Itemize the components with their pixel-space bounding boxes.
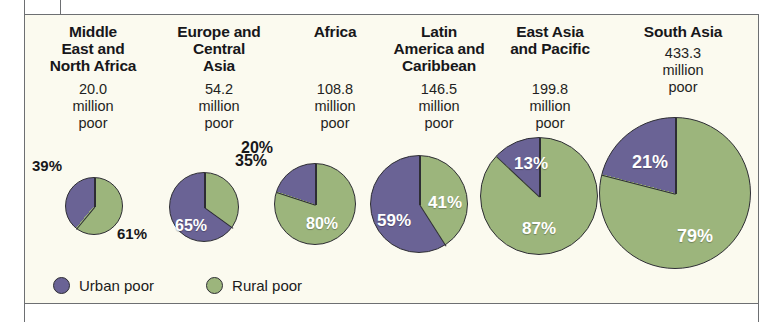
pie-slice-divider: [205, 207, 234, 229]
region-amount-line: million: [27, 98, 159, 115]
urban-percent-label: 13%: [514, 154, 548, 174]
region-title-line: East and: [27, 40, 159, 57]
frame-left-tick: [24, 0, 25, 14]
legend: Urban poor Rural poor: [53, 277, 302, 294]
region-title-line: North Africa: [27, 57, 159, 74]
legend-swatch-circle-icon: [53, 277, 70, 294]
pie-slice-divider: [315, 164, 316, 205]
pie-slice-divider: [277, 192, 316, 206]
pie-chart-east-asia-pacific: 13% 87%: [480, 137, 598, 255]
pie-slices: [599, 117, 751, 269]
chart-panel: Middle East and North Africa 20.0 millio…: [24, 14, 759, 304]
region-amount-line: million: [480, 98, 620, 115]
region-amount-line: poor: [153, 115, 285, 132]
region-amount-line: poor: [27, 115, 159, 132]
region-amount-line: poor: [613, 79, 753, 96]
pie-slice-divider: [419, 156, 420, 205]
pie-slice-divider: [602, 174, 676, 194]
pie-chart-europe-central-asia: 65% 35%: [169, 172, 239, 242]
rural-percent-label: 80%: [306, 215, 338, 233]
pie-slice-divider: [76, 207, 96, 230]
region-column-south-asia: South Asia 433.3 million poor: [613, 23, 753, 96]
region-amount-line: million: [153, 98, 285, 115]
urban-percent-label: 59%: [377, 211, 411, 231]
region-amount-line: 54.2: [153, 81, 285, 98]
pie-chart-latin-america-caribbean: 59% 41%: [370, 155, 468, 253]
urban-percent-label: 21%: [632, 152, 668, 173]
region-amount-line: million: [613, 62, 753, 79]
legend-label: Urban poor: [79, 277, 154, 294]
region-title: Middle East and North Africa: [27, 23, 159, 74]
region-title-line: East Asia: [480, 23, 620, 40]
region-amount-line: 433.3: [613, 45, 753, 62]
legend-label: Rural poor: [232, 277, 302, 294]
region-amount: 433.3 million poor: [613, 45, 753, 96]
region-title-line: and Pacific: [480, 40, 620, 57]
rural-percent-label: 61%: [117, 225, 147, 242]
region-title-line: Europe and: [153, 23, 285, 40]
region-title: South Asia: [613, 23, 753, 40]
rural-percent-label: 87%: [522, 219, 556, 239]
urban-percent-label: 20%: [241, 139, 273, 157]
region-title: Europe and Central Asia: [153, 23, 285, 74]
poverty-pie-figure: Middle East and North Africa 20.0 millio…: [0, 0, 773, 322]
frame-left-lower-tick: [24, 304, 25, 322]
pie-slice-divider: [204, 173, 205, 208]
rural-percent-label: 79%: [677, 226, 713, 247]
frame-right-lower-tick: [758, 304, 759, 322]
region-title: East Asia and Pacific: [480, 23, 620, 57]
pie-slices: [65, 177, 123, 235]
pie-chart-south-asia: 21% 79%: [599, 117, 751, 269]
region-title-line: Asia: [153, 57, 285, 74]
rural-percent-label: 41%: [428, 193, 462, 213]
legend-swatch-circle-icon: [206, 277, 223, 294]
legend-item-urban-poor: Urban poor: [53, 277, 154, 294]
region-column-east-asia-pacific: East Asia and Pacific 199.8 million poor: [480, 23, 620, 132]
region-amount-line: 20.0: [27, 81, 159, 98]
region-amount: 20.0 million poor: [27, 81, 159, 132]
region-column-europe-central-asia: Europe and Central Asia 54.2 million poo…: [153, 23, 285, 132]
urban-percent-label: 39%: [32, 157, 62, 174]
urban-percent-label: 65%: [175, 217, 207, 235]
region-title-line: Central: [153, 40, 285, 57]
pie-slice-divider: [94, 178, 95, 207]
region-title-line: South Asia: [613, 23, 753, 40]
frame-top-tick: [60, 0, 61, 14]
legend-item-rural-poor: Rural poor: [206, 277, 302, 294]
pie-chart-africa: 20% 80%: [274, 163, 356, 245]
region-amount: 54.2 million poor: [153, 81, 285, 132]
pie-chart-middle-east-north-africa: 39% 61%: [65, 177, 123, 235]
region-title-line: Middle: [27, 23, 159, 40]
region-column-middle-east-north-africa: Middle East and North Africa 20.0 millio…: [27, 23, 159, 132]
pie-slice-divider: [675, 118, 676, 194]
region-amount-line: 199.8: [480, 81, 620, 98]
